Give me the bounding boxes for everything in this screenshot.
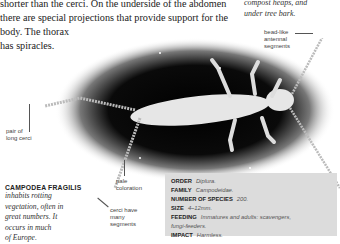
label-line: bead-like [264, 29, 290, 36]
label-pair-of-cerci: pair of long cerci [6, 128, 32, 142]
body-line: there are special projections that provi… [0, 11, 232, 25]
fact-value: Campodeidae. [196, 187, 234, 193]
side-note-line: compost heaps, and [244, 0, 307, 8]
fact-row-size: SIZE4–12mm. [171, 204, 331, 213]
fact-box: ORDERDiplura. FAMILYCampodeidae. NUMBER … [165, 173, 337, 236]
side-note-line: under tree bark. [244, 8, 307, 19]
label-line: antennal [264, 36, 290, 43]
desc-line: of Europe. [5, 233, 85, 244]
fact-value: fungi-feeders. [171, 223, 206, 229]
label-pale-coloration: pale coloration [116, 178, 142, 192]
label-line: pale [116, 178, 142, 185]
leader-line [29, 104, 30, 132]
desc-line: occurs in much [5, 223, 85, 234]
label-line: many [110, 214, 137, 221]
fact-key: SIZE [171, 205, 184, 211]
body-line: has spiracles. [0, 39, 232, 53]
desc-line: inhabits rotting [5, 191, 85, 202]
label-line: segments [110, 221, 137, 228]
fact-value: Immatures and adults: scavengers, [201, 214, 291, 220]
label-line: long cerci [6, 135, 32, 142]
fact-key: FAMILY [171, 187, 192, 193]
species-title: CAMPODEA FRAGILIS [5, 184, 85, 191]
fact-value: 4–12mm. [188, 205, 212, 211]
fact-key: IMPACT [171, 232, 193, 238]
body-line: body. The thorax [0, 25, 232, 39]
fact-value: Diplura. [196, 178, 216, 184]
leader-line [97, 198, 108, 208]
desc-line: great numbers. It [5, 212, 85, 223]
desc-line: vegetation, often in [5, 202, 85, 213]
fact-row-family: FAMILYCampodeidae. [171, 186, 331, 195]
fact-row-impact: IMPACTHarmless. [171, 231, 331, 240]
label-line: cerci have [110, 207, 137, 214]
body-paragraph: shorter than the cerci. On the underside… [0, 0, 232, 53]
species-description: inhabits rotting vegetation, often in gr… [5, 191, 85, 244]
fact-key: ORDER [171, 178, 192, 184]
label-cerci-segments: cerci have many segments [110, 207, 137, 228]
fact-value: 200. [237, 196, 248, 202]
fact-row-feeding-cont: fungi-feeders. [171, 222, 331, 231]
fact-key: FEEDING [171, 214, 197, 220]
fact-value: Harmless. [197, 232, 223, 238]
fact-row-species-count: NUMBER OF SPECIES200. [171, 195, 331, 204]
fact-key: NUMBER OF SPECIES [171, 196, 233, 202]
label-line: segments [264, 43, 290, 50]
side-note: compost heaps, and under tree bark. [244, 0, 307, 19]
insect-photo [40, 38, 340, 190]
fact-row-feeding: FEEDINGImmatures and adults: scavengers, [171, 213, 331, 222]
body-line: shorter than the cerci. On the underside… [0, 0, 232, 11]
leader-line [295, 33, 313, 34]
label-antennal-segments: bead-like antennal segments [264, 29, 290, 50]
label-line: pair of [6, 128, 32, 135]
species-caption: CAMPODEA FRAGILIS inhabits rotting veget… [5, 184, 85, 244]
leader-line [124, 160, 125, 176]
label-line: coloration [116, 185, 142, 192]
fact-row-order: ORDERDiplura. [171, 177, 331, 186]
